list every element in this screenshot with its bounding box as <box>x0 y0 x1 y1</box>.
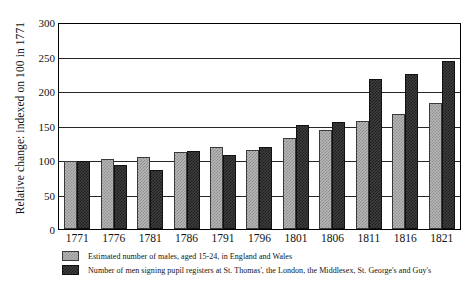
x-tick-1791: 1791 <box>205 232 241 244</box>
y-tick-50: 50 <box>21 190 55 201</box>
legend-item-series-0: Estimated number of males, aged 15-24, i… <box>62 249 466 263</box>
bar-1791-series-0 <box>210 147 223 229</box>
legend-label-series-1: Number of men signing pupil registers at… <box>88 266 431 275</box>
bar-1816-series-1 <box>405 74 418 229</box>
bar-1801-series-1 <box>296 125 309 229</box>
bar-group-1806 <box>314 24 350 229</box>
y-tick-100: 100 <box>21 156 55 167</box>
bar-1781-series-1 <box>150 170 163 229</box>
bar-1806-series-0 <box>319 130 332 229</box>
bar-1796-series-1 <box>259 147 272 229</box>
bar-1771-series-1 <box>77 161 90 229</box>
bar-group-1791 <box>205 24 241 229</box>
bar-group-1776 <box>95 24 131 229</box>
bar-1801-series-0 <box>283 138 296 229</box>
bar-1816-series-0 <box>392 114 405 229</box>
bar-1791-series-1 <box>223 155 236 229</box>
y-tick-300: 300 <box>21 18 55 29</box>
legend-swatch-icon-series-1 <box>62 265 79 275</box>
x-axis-tick-labels: 1771177617811786179117961801180618111816… <box>59 232 460 244</box>
x-tick-1821: 1821 <box>424 232 460 244</box>
x-tick-1771: 1771 <box>59 232 95 244</box>
bar-1821-series-0 <box>429 103 442 229</box>
bar-1796-series-0 <box>246 150 259 229</box>
x-tick-1801: 1801 <box>278 232 314 244</box>
legend-label-series-0: Estimated number of males, aged 15-24, i… <box>88 252 292 261</box>
y-tick-150: 150 <box>21 121 55 132</box>
x-tick-1806: 1806 <box>314 232 350 244</box>
bar-groups <box>59 24 460 229</box>
bar-group-1801 <box>278 24 314 229</box>
bar-group-1811 <box>351 24 387 229</box>
bar-group-1821 <box>424 24 460 229</box>
bar-1811-series-0 <box>356 121 369 229</box>
legend-swatch-icon-series-0 <box>62 251 79 261</box>
bar-1786-series-0 <box>174 152 187 229</box>
legend-item-series-1: Number of men signing pupil registers at… <box>62 263 466 277</box>
bar-group-1771 <box>59 24 95 229</box>
chart-figure: Relative change: indexed on 100 in 1771 … <box>0 0 472 285</box>
chart-legend: Estimated number of males, aged 15-24, i… <box>62 249 466 277</box>
bar-1781-series-0 <box>137 157 150 229</box>
x-tick-1776: 1776 <box>95 232 131 244</box>
bar-group-1781 <box>132 24 168 229</box>
bar-1811-series-1 <box>369 79 382 229</box>
x-tick-1811: 1811 <box>351 232 387 244</box>
y-tick-200: 200 <box>21 87 55 98</box>
bar-1776-series-0 <box>101 159 114 229</box>
bar-1806-series-1 <box>332 122 345 229</box>
bar-1771-series-0 <box>64 161 77 229</box>
bar-1821-series-1 <box>442 61 455 229</box>
bar-1786-series-1 <box>187 151 200 229</box>
bar-group-1796 <box>241 24 277 229</box>
bar-group-1786 <box>168 24 204 229</box>
x-tick-1796: 1796 <box>241 232 277 244</box>
y-tick-250: 250 <box>21 52 55 63</box>
y-tick-0: 0 <box>21 225 55 236</box>
bar-1776-series-1 <box>114 165 127 229</box>
x-tick-1816: 1816 <box>387 232 423 244</box>
bar-group-1816 <box>387 24 423 229</box>
x-tick-1781: 1781 <box>132 232 168 244</box>
x-tick-1786: 1786 <box>168 232 204 244</box>
